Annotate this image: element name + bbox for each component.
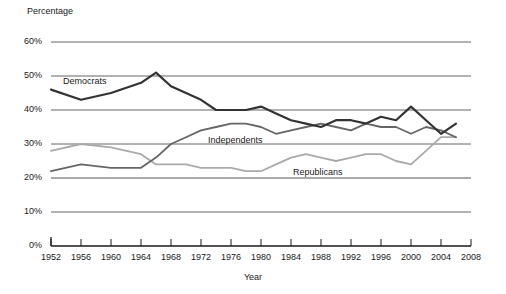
series-lines bbox=[51, 73, 456, 172]
plot-area bbox=[0, 0, 506, 294]
series-label-independents: Independents bbox=[208, 135, 263, 145]
series-label-republicans: Republicans bbox=[293, 167, 343, 177]
series-label-democrats: Democrats bbox=[63, 76, 107, 86]
x-axis-ticks bbox=[51, 239, 471, 246]
chart-container: Percentage Year 0%10%20%30%40%50%60% 195… bbox=[0, 0, 506, 294]
